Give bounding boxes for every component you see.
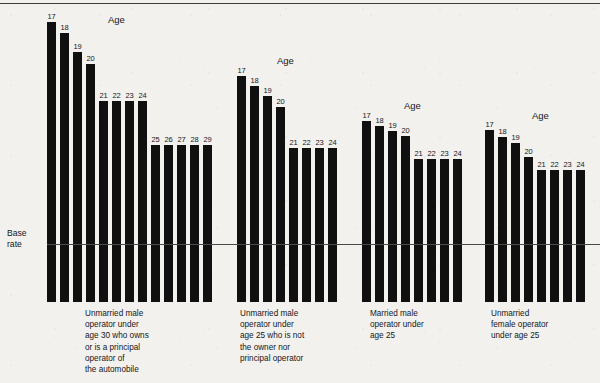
bar-group4-age-21 (537, 170, 546, 302)
bar-label-group3-age-20: 20 (398, 126, 413, 135)
base-rate-label: Base rate (7, 228, 27, 250)
bar-label-group1-age-19: 19 (70, 42, 85, 51)
bar-label-group2-age-18: 18 (247, 76, 262, 85)
bar-group3-age-23 (440, 159, 449, 302)
bar-group3-age-17 (362, 121, 371, 302)
group-3-title: Age (404, 100, 421, 111)
base-rate-line (47, 244, 600, 245)
bar-group3-age-20 (401, 136, 410, 302)
bar-group1-age-25 (151, 145, 160, 302)
bar-group3-age-19 (388, 131, 397, 302)
bar-group4-age-22 (550, 170, 559, 302)
bar-group2-age-22 (302, 148, 311, 302)
group-4-title: Age (532, 110, 549, 121)
bar-label-group2-age-20: 20 (273, 97, 288, 106)
bar-group2-age-24 (328, 148, 337, 302)
bar-group1-age-28 (190, 145, 199, 302)
bar-group1-age-22 (112, 101, 121, 302)
bar-label-group2-age-17: 17 (234, 66, 249, 75)
bar-group1-age-18 (60, 33, 69, 302)
bar-label-group3-age-24: 24 (450, 149, 465, 158)
bar-group4-age-17 (485, 130, 494, 302)
bar-group2-age-23 (315, 148, 324, 302)
bar-group1-age-21 (99, 101, 108, 302)
bar-label-group1-age-29: 29 (200, 135, 215, 144)
bar-group2-age-19 (263, 96, 272, 302)
bar-group3-age-22 (427, 159, 436, 302)
group-2-title: Age (277, 55, 294, 66)
bar-group2-age-17 (237, 76, 246, 302)
group-2-caption: Unmarried male operator under age 25 who… (240, 308, 304, 364)
bar-group4-age-24 (576, 170, 585, 302)
group-3-caption: Married male operator under age 25 (370, 308, 424, 342)
bar-chart-plot: Age17181920212223242526272829Unmarried m… (0, 0, 600, 383)
bar-label-group2-age-19: 19 (260, 86, 275, 95)
bar-label-group4-age-19: 19 (508, 133, 523, 142)
bar-group1-age-20 (86, 64, 95, 302)
bar-label-group1-age-20: 20 (83, 54, 98, 63)
bar-label-group4-age-24: 24 (573, 160, 588, 169)
bar-group4-age-19 (511, 143, 520, 302)
group-1-title: Age (108, 14, 125, 25)
group-1-caption: Unmarried male operator under age 30 who… (85, 308, 149, 375)
bar-group1-age-19 (73, 52, 82, 302)
bar-group4-age-20 (524, 157, 533, 302)
bar-label-group2-age-24: 24 (325, 138, 340, 147)
bar-group1-age-27 (177, 145, 186, 302)
bar-label-group1-age-18: 18 (57, 23, 72, 32)
bar-group3-age-18 (375, 126, 384, 302)
bar-group3-age-24 (453, 159, 462, 302)
bar-label-group4-age-20: 20 (521, 147, 536, 156)
group-4-caption: Unmarried female operator under age 25 (491, 308, 548, 342)
bar-group4-age-23 (563, 170, 572, 302)
bar-group1-age-17 (47, 22, 56, 302)
bar-label-group1-age-24: 24 (135, 91, 150, 100)
bar-group1-age-24 (138, 101, 147, 302)
bar-group2-age-21 (289, 148, 298, 302)
bar-label-group1-age-17: 17 (44, 12, 59, 21)
bar-group1-age-23 (125, 101, 134, 302)
bar-group3-age-21 (414, 159, 423, 302)
bar-group4-age-18 (498, 137, 507, 302)
bar-group2-age-18 (250, 86, 259, 302)
bar-group2-age-20 (276, 107, 285, 302)
chart-page: Age17181920212223242526272829Unmarried m… (0, 0, 600, 383)
bar-group1-age-29 (203, 145, 212, 302)
bar-group1-age-26 (164, 145, 173, 302)
